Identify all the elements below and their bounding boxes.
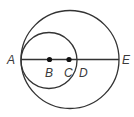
label-A: A [6, 53, 15, 67]
label-D: D [79, 66, 88, 80]
point-B-dot [47, 57, 52, 62]
point-C-dot [66, 57, 71, 62]
label-B: B [45, 66, 53, 80]
circles-diagram: A B C D E [0, 0, 134, 117]
label-C: C [64, 66, 73, 80]
label-E: E [122, 53, 131, 67]
